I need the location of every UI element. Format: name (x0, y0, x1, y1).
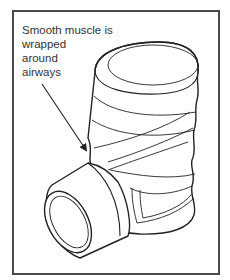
label-line-4: airways (22, 65, 113, 79)
label-line-1: Smooth muscle is (22, 23, 113, 37)
pointer-arrow (42, 84, 86, 150)
annotation-label: Smooth muscle is wrapped around airways (22, 23, 113, 79)
label-line-2: wrapped (22, 37, 113, 51)
label-line-3: around (22, 51, 113, 65)
